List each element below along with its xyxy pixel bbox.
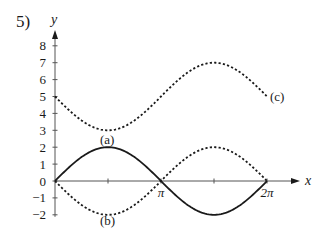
y-tick-label: −1 xyxy=(32,190,46,205)
y-tick-label: −2 xyxy=(32,207,46,222)
y-axis-label: y xyxy=(49,12,58,27)
curve-c xyxy=(55,63,267,131)
x-axis-arrow-icon xyxy=(291,178,300,184)
y-tick-label: 1 xyxy=(40,157,47,172)
x-tick-label: 2π xyxy=(260,185,274,200)
y-axis-arrow-icon xyxy=(52,30,58,39)
y-tick-label: 0 xyxy=(40,174,47,189)
labels: xy876543210−1−2π2π(a)(b)(c) xyxy=(32,12,312,228)
curve-label-b: (b) xyxy=(100,213,115,228)
y-tick-label: 6 xyxy=(40,72,47,87)
x-tick-label: π xyxy=(158,185,165,200)
y-tick-label: 8 xyxy=(40,38,47,53)
curve-label-a: (a) xyxy=(100,132,114,147)
y-tick-label: 2 xyxy=(40,140,47,155)
x-axis-label: x xyxy=(304,173,312,188)
y-tick-label: 4 xyxy=(40,106,47,121)
chart: xy876543210−1−2π2π(a)(b)(c) xyxy=(0,0,325,239)
y-tick-label: 3 xyxy=(40,123,47,138)
y-tick-label: 7 xyxy=(40,55,47,70)
y-tick-label: 5 xyxy=(40,89,47,104)
curve-label-c: (c) xyxy=(270,89,284,104)
